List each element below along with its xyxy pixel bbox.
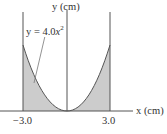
y-axis-label: y (cm) xyxy=(52,2,80,13)
tick-label-right: 3.0 xyxy=(102,116,115,127)
right-shaded-region xyxy=(67,45,110,111)
curve-equation-label: y = 4.0x2 xyxy=(25,25,65,37)
x-axis-label-text: x (cm) xyxy=(136,105,164,116)
tick-label-left: −3.0 xyxy=(13,116,32,127)
left-shaded-region xyxy=(23,45,67,111)
equation-prefix: y = 4.0 xyxy=(26,26,56,37)
equation-exponent: 2 xyxy=(60,24,64,32)
label-leader-line xyxy=(34,36,45,83)
parabola-diagram: y (cm) y = 4.0x2 x (cm) −3.0 3.0 xyxy=(0,0,167,134)
x-axis-label: x (cm) xyxy=(136,106,164,117)
